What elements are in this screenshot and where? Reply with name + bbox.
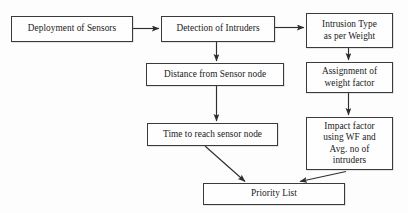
edge-time-to-priority bbox=[205, 146, 245, 182]
node-label: Intrusion Typeas per Weight bbox=[310, 19, 389, 41]
node-time-to-reach-sensor-node[interactable]: Time to reach sensor node bbox=[147, 123, 278, 146]
node-label: Deployment of Sensors bbox=[15, 23, 129, 34]
node-label: Assignment ofweight factor bbox=[310, 66, 389, 88]
node-label: Detection of Intruders bbox=[165, 23, 271, 34]
node-label: Impact factorusing WF andAvg. no ofintru… bbox=[310, 121, 389, 166]
node-detection-of-intruders[interactable]: Detection of Intruders bbox=[161, 16, 275, 42]
node-distance-from-sensor-node[interactable]: Distance from Sensor node bbox=[146, 63, 284, 86]
edge-impact-to-priority bbox=[300, 172, 346, 182]
node-label: Priority List bbox=[207, 188, 341, 199]
node-deployment-of-sensors[interactable]: Deployment of Sensors bbox=[11, 16, 133, 42]
node-label: Time to reach sensor node bbox=[151, 129, 274, 140]
flowchart-canvas: Deployment of Sensors Detection of Intru… bbox=[0, 0, 408, 213]
node-intrusion-type-as-per-weight[interactable]: Intrusion Typeas per Weight bbox=[306, 13, 393, 48]
node-impact-factor[interactable]: Impact factorusing WF andAvg. no ofintru… bbox=[306, 117, 393, 170]
node-assignment-of-weight-factor[interactable]: Assignment ofweight factor bbox=[306, 62, 393, 93]
node-label: Distance from Sensor node bbox=[150, 69, 280, 80]
node-priority-list[interactable]: Priority List bbox=[203, 183, 345, 205]
